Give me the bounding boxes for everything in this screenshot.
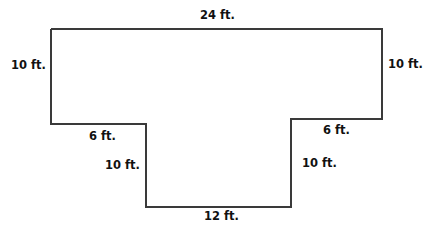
label-left-step: 6 ft. bbox=[89, 131, 116, 143]
outline-path bbox=[51, 29, 382, 207]
label-left-upper: 10 ft. bbox=[11, 60, 46, 72]
label-right-upper: 10 ft. bbox=[388, 59, 423, 71]
t-shape-outline bbox=[0, 0, 433, 231]
label-bottom: 12 ft. bbox=[204, 211, 239, 223]
label-right-lower: 10 ft. bbox=[302, 158, 337, 170]
label-right-step: 6 ft. bbox=[323, 125, 350, 137]
label-left-lower: 10 ft. bbox=[105, 160, 140, 172]
label-top: 24 ft. bbox=[200, 10, 235, 22]
